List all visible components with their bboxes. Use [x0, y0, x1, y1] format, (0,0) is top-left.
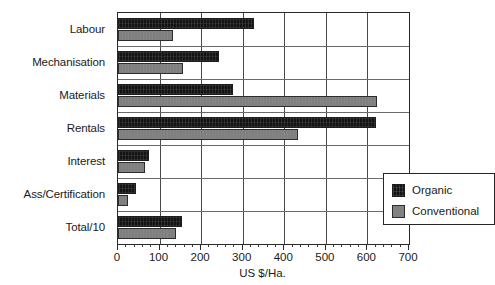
bar-conventional-mechanisation [118, 63, 183, 74]
minor-tick [125, 244, 126, 247]
legend-item-conventional: Conventional [392, 202, 479, 220]
bar-group-container [118, 13, 409, 244]
bar-organic-interest [118, 150, 149, 161]
legend-label-conventional: Conventional [412, 205, 479, 218]
minor-tick [317, 244, 318, 247]
minor-tick [208, 244, 209, 247]
minor-tick [333, 244, 334, 247]
x-tick-label-0: 0 [114, 250, 120, 264]
x-tick-label-100: 100 [149, 250, 168, 264]
minor-tick [142, 244, 143, 247]
minor-tick [233, 244, 234, 247]
category-label-ass-certification: Ass/Certification [24, 188, 105, 200]
x-tick-label-400: 400 [274, 250, 293, 264]
minor-tick [375, 244, 376, 247]
category-label-mechanisation: Mechanisation [32, 56, 105, 68]
minor-tick [383, 244, 384, 247]
minor-tick [292, 244, 293, 247]
minor-tick [184, 244, 185, 247]
minor-tick [258, 244, 259, 247]
conventional-swatch [392, 205, 405, 218]
category-label-labour: Labour [70, 23, 105, 35]
chart-legend: OrganicConventional [383, 173, 495, 225]
bar-organic-materials [118, 84, 233, 95]
minor-tick [150, 244, 151, 247]
x-tick-label-300: 300 [232, 250, 251, 264]
minor-tick [300, 244, 301, 247]
minor-tick [250, 244, 251, 247]
category-axis-labels: LabourMechanisationMaterialsRentalsInter… [0, 12, 111, 243]
minor-tick [308, 244, 309, 247]
bar-organic-labour [118, 18, 254, 29]
minor-tick [341, 244, 342, 247]
minor-tick [400, 244, 401, 247]
plot-area: OrganicConventional [117, 12, 410, 245]
minor-tick [134, 244, 135, 247]
bar-conventional-ass-certification [118, 195, 128, 206]
bar-organic-ass-certification [118, 183, 136, 194]
bar-conventional-materials [118, 96, 377, 107]
bar-organic-mechanisation [118, 51, 219, 62]
bar-conventional-total-10 [118, 228, 176, 239]
x-tick-label-600: 600 [357, 250, 376, 264]
category-label-materials: Materials [59, 89, 105, 101]
minor-tick [391, 244, 392, 247]
minor-tick [225, 244, 226, 247]
bar-conventional-rentals [118, 129, 298, 140]
legend-label-organic: Organic [412, 184, 452, 197]
minor-tick [267, 244, 268, 247]
organic-swatch [392, 184, 405, 197]
bar-organic-total-10 [118, 216, 182, 227]
minor-tick [275, 244, 276, 247]
category-label-total-10: Total/10 [66, 221, 105, 233]
category-label-interest: Interest [67, 155, 105, 167]
value-axis-title: US $/Ha. [117, 266, 408, 280]
legend-item-organic: Organic [392, 181, 452, 199]
bar-organic-rentals [118, 117, 376, 128]
x-tick-label-200: 200 [191, 250, 210, 264]
minor-tick [217, 244, 218, 247]
x-tick-label-500: 500 [315, 250, 334, 264]
minor-tick [358, 244, 359, 247]
minor-tick [350, 244, 351, 247]
x-tick-label-700: 700 [398, 250, 417, 264]
value-axis-tick-labels: 0100200300400500600700 [0, 250, 438, 266]
bar-conventional-interest [118, 162, 145, 173]
category-label-rentals: Rentals [67, 122, 105, 134]
bar-conventional-labour [118, 30, 173, 41]
minor-tick [192, 244, 193, 247]
minor-tick [167, 244, 168, 247]
minor-tick [175, 244, 176, 247]
